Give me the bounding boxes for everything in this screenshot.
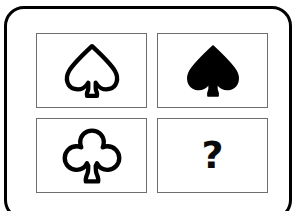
puzzle-grid: Spade outline Spade filled Club outline … xyxy=(36,33,268,193)
puzzle-root: Spade outline Spade filled Club outline … xyxy=(0,0,300,211)
spade-filled-icon xyxy=(182,40,244,102)
puzzle-cell-bottom-left[interactable]: Club outline xyxy=(36,118,147,193)
question-mark-icon: ? xyxy=(201,136,223,174)
puzzle-cell-top-left[interactable]: Spade outline xyxy=(36,33,147,108)
puzzle-cell-top-right[interactable]: Spade filled xyxy=(157,33,268,108)
spade-outline-icon xyxy=(61,40,123,102)
puzzle-cell-bottom-right-answer-slot[interactable]: ? xyxy=(157,118,268,193)
club-outline-icon xyxy=(61,125,123,187)
